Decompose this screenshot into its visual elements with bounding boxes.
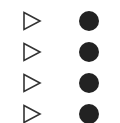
play-button[interactable] [22, 42, 42, 62]
play-outline-icon [22, 104, 42, 123]
play-outline-icon [22, 42, 42, 62]
play-button[interactable] [22, 11, 42, 31]
list-row [0, 99, 120, 123]
filled-circle-icon[interactable] [79, 11, 99, 31]
play-outline-icon [22, 73, 42, 93]
cutoff-text-line [0, 0, 120, 3]
filled-circle-icon[interactable] [79, 73, 99, 93]
play-button[interactable] [22, 104, 42, 123]
list-row [0, 68, 120, 99]
filled-circle-icon[interactable] [79, 104, 99, 123]
list-row [0, 6, 120, 37]
list-row [0, 37, 120, 68]
filled-circle-icon[interactable] [79, 42, 99, 62]
play-outline-icon [22, 11, 42, 31]
play-button[interactable] [22, 73, 42, 93]
